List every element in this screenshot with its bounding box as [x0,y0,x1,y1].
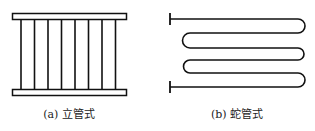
bottom-header-pipe [13,90,127,96]
vertical-tubes [21,20,116,90]
figure-panel: (a) 立管式 (b) 蛇管式 [0,0,315,131]
caption-b: (b) 蛇管式 [211,105,263,121]
serpentine-tube-evaporator [170,13,305,93]
serpentine-coil [170,19,305,87]
vertical-tube-evaporator [13,14,127,96]
top-header-pipe [13,14,127,20]
caption-a: (a) 立管式 [43,105,95,121]
